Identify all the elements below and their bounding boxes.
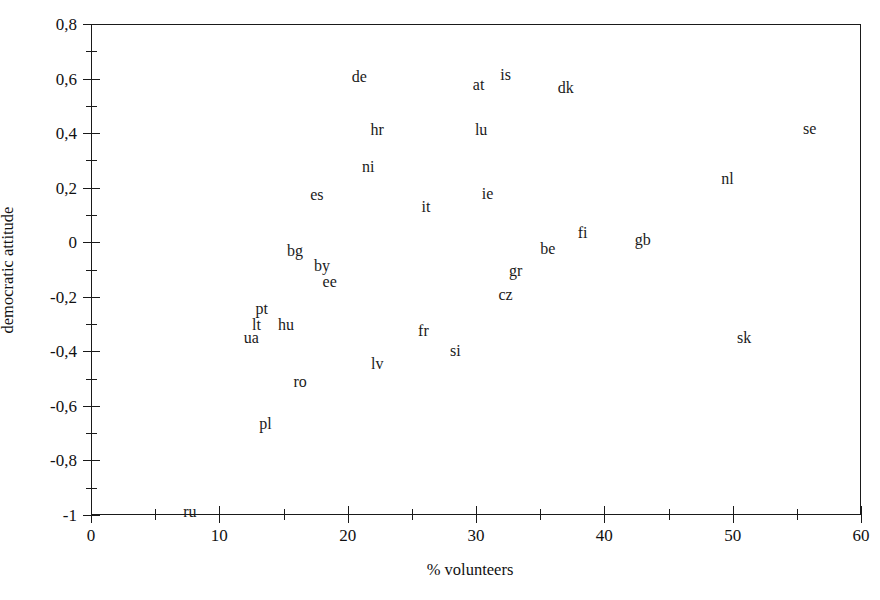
data-point-label-ee: ee [323,274,337,290]
x-axis-tick [219,506,220,523]
y-axis-tick-label: -0,8 [50,452,77,469]
x-axis-tick-label: 0 [87,527,96,544]
x-axis-tick [861,506,862,523]
data-point-label-is: is [500,67,511,83]
data-point-label-si: si [450,343,461,359]
data-point-label-pl: pl [259,416,271,432]
x-axis-tick [476,506,477,523]
data-point-label-de: de [352,69,367,85]
data-point-label-ie: ie [482,186,494,202]
x-axis-tick-label: 10 [211,527,228,544]
data-point-label-at: at [473,77,485,93]
y-axis-tick-label: -0,4 [50,343,77,360]
plot-area [91,24,861,515]
y-axis-minor-tick [86,488,97,489]
scatter-chart-figure: democratic attitude % volunteers 0,80,60… [0,0,880,600]
x-axis-minor-tick [412,509,413,520]
x-axis-minor-tick [669,509,670,520]
data-point-label-lv: lv [371,356,383,372]
data-point-label-fr: fr [418,323,429,339]
data-point-label-lu: lu [475,122,487,138]
data-point-label-dk: dk [558,80,574,96]
y-axis-tick-label: -1 [63,507,77,524]
x-axis-minor-tick [540,509,541,520]
y-axis-tick [83,297,100,298]
y-axis-tick-label: -0,2 [50,288,77,305]
x-axis-minor-tick [284,509,285,520]
data-point-label-hu: hu [278,317,294,333]
x-axis-tick-label: 20 [339,527,356,544]
x-axis-title: % volunteers [427,560,514,580]
x-axis-tick-label: 40 [596,527,613,544]
y-axis-tick-label: 0 [69,234,78,251]
x-axis-tick [348,506,349,523]
data-point-label-fi: fi [578,225,588,241]
data-point-label-ro: ro [294,374,307,390]
y-axis-tick [83,242,100,243]
y-axis-tick-label: 0,6 [56,70,77,87]
x-axis-tick [604,506,605,523]
y-axis-tick [83,133,100,134]
y-axis-minor-tick [86,160,97,161]
y-axis-minor-tick [86,51,97,52]
y-axis-tick [83,460,100,461]
data-point-label-cz: cz [498,287,512,303]
data-point-label-bg: bg [287,243,303,259]
data-point-label-se: se [803,121,816,137]
data-point-label-ru: ru [183,504,196,520]
y-axis-minor-tick [86,433,97,434]
data-point-label-by: by [314,258,330,274]
x-axis-minor-tick [155,509,156,520]
data-point-label-gr: gr [509,263,522,279]
data-point-label-gb: gb [635,232,651,248]
x-axis-tick-label: 30 [468,527,485,544]
y-axis-minor-tick [86,106,97,107]
data-point-label-ni: ni [362,159,374,175]
x-axis-tick [733,506,734,523]
x-axis-tick-label: 60 [853,527,870,544]
y-axis-tick-label: 0,8 [56,16,77,33]
data-point-label-ua: ua [244,330,259,346]
data-point-label-nl: nl [721,171,733,187]
data-point-label-sk: sk [737,330,751,346]
data-point-label-be: be [540,241,555,257]
data-point-label-pt: pt [255,301,267,317]
y-axis-tick-label: -0,6 [50,397,77,414]
y-axis-minor-tick [86,379,97,380]
y-axis-tick [83,351,100,352]
data-point-label-es: es [310,187,323,203]
data-point-label-hr: hr [371,122,384,138]
data-point-label-it: it [421,199,430,215]
y-axis-tick [83,188,100,189]
y-axis-tick [83,79,100,80]
y-axis-tick [83,24,100,25]
y-axis-tick-label: 0,2 [56,179,77,196]
x-axis-tick [91,506,92,523]
y-axis-minor-tick [86,270,97,271]
y-axis-title: democratic attitude [0,207,18,334]
y-axis-minor-tick [86,215,97,216]
y-axis-tick-label: 0,4 [56,125,77,142]
x-axis-tick-label: 50 [724,527,741,544]
y-axis-tick [83,406,100,407]
y-axis-minor-tick [86,324,97,325]
x-axis-minor-tick [797,509,798,520]
